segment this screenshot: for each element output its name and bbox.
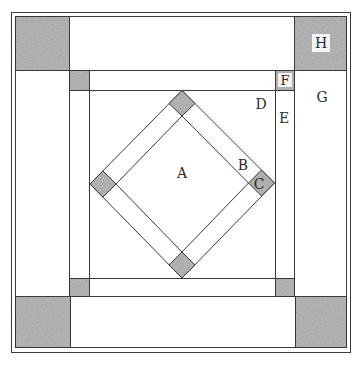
label-a: A <box>177 166 187 180</box>
label-d: D <box>255 97 266 111</box>
label-h: H <box>315 36 327 50</box>
label-f: F <box>280 74 289 87</box>
label-e: E <box>279 111 289 125</box>
label-c: C <box>254 177 265 191</box>
label-g: G <box>316 90 327 104</box>
center-square-a <box>116 116 249 252</box>
corner-square-h-bottom-right <box>296 297 347 348</box>
small-square-f-bottom-right <box>276 279 295 297</box>
label-b: B <box>238 158 248 172</box>
cornerstone-c-left <box>90 171 116 197</box>
corner-square-h-bottom-left <box>16 297 71 348</box>
quilt-diagram-drawing <box>0 0 361 366</box>
corner-square-h-top-left <box>16 17 70 71</box>
small-square-f-top-left <box>70 71 90 91</box>
cornerstone-c-bottom <box>169 252 195 278</box>
small-square-f-bottom-left <box>70 279 90 297</box>
quilt-diagram: A B C D E F G H <box>0 0 361 366</box>
cornerstone-c-top <box>169 91 195 117</box>
